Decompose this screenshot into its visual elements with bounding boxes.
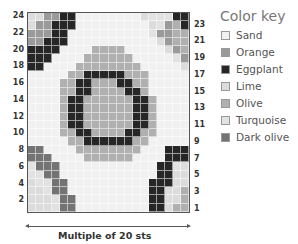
grid-cell [84,79,92,87]
grid-cell [100,121,108,129]
grid-cell [133,204,141,212]
grid-cell [173,129,181,137]
grid-cell [100,79,108,87]
grid-cell [133,96,141,104]
grid-cell [133,154,141,162]
grid-cell [141,46,149,54]
grid-cell [157,162,165,170]
grid-cell [133,129,141,137]
grid-cell [117,104,125,112]
grid-cell [149,46,157,54]
grid-cell [52,137,60,145]
grid-cell [181,21,189,29]
grid-cell [165,171,173,179]
grid-cell [52,146,60,154]
grid-cell [141,104,149,112]
grid-cell [133,46,141,54]
grid-cell [141,54,149,62]
grid-cell [76,195,84,203]
grid-cell [117,162,125,170]
row-label: 21 [194,37,205,45]
row-label: 9 [194,138,200,146]
grid-cell [141,204,149,212]
grid-cell [28,137,36,145]
grid-cell [133,79,141,87]
grid-cell [125,187,133,195]
grid-cell [157,71,165,79]
grid-cell [92,54,100,62]
grid-cell [100,146,108,154]
grid-cell [28,204,36,212]
grid-cell [125,137,133,145]
row-label: 13 [194,104,205,112]
grid-cell [36,104,44,112]
grid-cell [157,88,165,96]
grid-cell [92,146,100,154]
grid-cell [92,204,100,212]
grid-cell [181,171,189,179]
grid-cell [36,54,44,62]
grid-cell [44,195,52,203]
grid-cell [52,204,60,212]
grid-cell [157,171,165,179]
color-swatch-icon [221,116,230,125]
grid-cell [149,187,157,195]
grid-cell [68,21,76,29]
grid-cell [100,187,108,195]
grid-cell [173,204,181,212]
grid-cell [157,63,165,71]
grid-cell [125,30,133,38]
caption: Multiple of 20 sts [58,230,151,241]
grid-cell [173,46,181,54]
grid-cell [117,121,125,129]
grid-cell [181,154,189,162]
grid-cell [44,30,52,38]
grid-cell [173,21,181,29]
grid-cell [109,88,117,96]
grid-cell [76,30,84,38]
grid-cell [28,195,36,203]
grid-cell [92,129,100,137]
grid-cell [36,13,44,21]
grid-cell [181,88,189,96]
grid-cell [109,30,117,38]
grid-cell [125,146,133,154]
grid-cell [92,104,100,112]
grid-cell [149,104,157,112]
grid-cell [92,96,100,104]
grid-cell [84,71,92,79]
grid-cell [44,154,52,162]
grid-cell [52,30,60,38]
row-label: 20 [10,46,24,54]
grid-cell [28,162,36,170]
row-label: 1 [194,205,200,213]
grid-cell [141,30,149,38]
grid-cell [68,13,76,21]
grid-cell [68,154,76,162]
grid-cell [165,46,173,54]
grid-cell [68,204,76,212]
grid-cell [149,38,157,46]
grid-cell [157,187,165,195]
grid-cell [181,79,189,87]
grid-cell [165,137,173,145]
grid-cell [149,121,157,129]
grid-cell [117,38,125,46]
grid-cell [133,121,141,129]
row-label: 4 [10,180,24,188]
grid-cell [133,171,141,179]
grid-cell [133,137,141,145]
grid-cell [36,79,44,87]
grid-cell [157,13,165,21]
grid-cell [76,121,84,129]
grid-cell [84,204,92,212]
grid-cell [117,79,125,87]
grid-cell [165,113,173,121]
grid-cell [60,13,68,21]
grid-cell [76,179,84,187]
grid-cell [28,113,36,121]
grid-cell [52,121,60,129]
grid-cell [173,30,181,38]
grid-cell [52,63,60,71]
grid-cell [109,146,117,154]
